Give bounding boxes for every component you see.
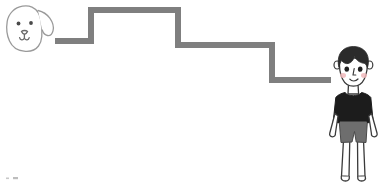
boy-right-cheek (361, 73, 367, 78)
illustration-canvas: Illustration of a dog and a boy separate… (0, 0, 387, 185)
boy (330, 47, 378, 182)
boy-right-leg (358, 140, 366, 177)
boy-left-cheek (340, 73, 346, 78)
boy-left-foot (341, 177, 349, 182)
step-line (55, 10, 331, 80)
boy-right-eye (358, 67, 363, 72)
boy-tshirt (333, 93, 373, 123)
dog-head-outline (7, 6, 42, 51)
boy-left-arm (330, 114, 338, 137)
dog (7, 6, 54, 51)
boy-shorts (339, 119, 368, 143)
boy-left-eye (345, 67, 350, 72)
boy-right-foot (358, 177, 366, 182)
dog-right-eye (29, 21, 33, 25)
dog-left-eye (17, 21, 21, 25)
scene-svg (0, 0, 387, 185)
boy-right-arm (369, 114, 377, 137)
corner-mark (6, 177, 18, 179)
step-line-group (55, 10, 331, 80)
boy-left-leg (342, 140, 350, 177)
